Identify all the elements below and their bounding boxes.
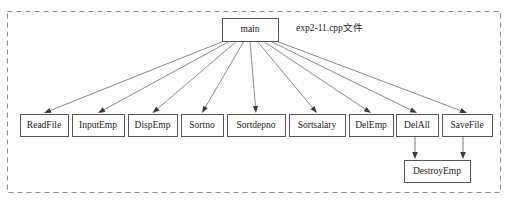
arrowhead-main-to-sortno bbox=[202, 106, 208, 113]
node-group: mainReadFileInputEmpDispEmpSortnoSortdep… bbox=[21, 19, 493, 183]
edge-main-to-savefile bbox=[276, 41, 461, 111]
node-sortdepno[interactable]: Sortdepno bbox=[228, 115, 286, 137]
node-sortdepno-label: Sortdepno bbox=[236, 120, 275, 130]
edge-main-to-sortsalary bbox=[257, 41, 313, 108]
edge-main-to-sortdepno bbox=[250, 41, 255, 107]
arrowhead-main-to-delall bbox=[410, 108, 417, 113]
node-delall[interactable]: DelAll bbox=[397, 115, 439, 137]
edge-main-to-readfile bbox=[50, 41, 224, 111]
node-main-label: main bbox=[241, 24, 260, 34]
edge-main-to-delall bbox=[270, 41, 411, 110]
edge-main-to-dispemp bbox=[157, 41, 237, 109]
node-delemp-label: DelEmp bbox=[355, 120, 387, 130]
call-graph-diagram: mainReadFileInputEmpDispEmpSortnoSortdep… bbox=[0, 0, 509, 201]
node-readfile[interactable]: ReadFile bbox=[21, 115, 69, 137]
node-sortsalary[interactable]: Sortsalary bbox=[290, 115, 346, 137]
node-savefile[interactable]: SaveFile bbox=[443, 115, 493, 137]
arrowhead-main-to-inputemp bbox=[98, 107, 105, 113]
node-dispemp-label: DispEmp bbox=[135, 120, 171, 130]
node-delemp[interactable]: DelEmp bbox=[350, 115, 394, 137]
arrowhead-main-to-delemp bbox=[364, 107, 371, 113]
node-destroyemp[interactable]: DestroyEmp bbox=[405, 161, 471, 183]
edge-main-to-inputemp bbox=[104, 41, 230, 110]
node-sortsalary-label: Sortsalary bbox=[298, 120, 337, 130]
node-destroyemp-label: DestroyEmp bbox=[413, 166, 461, 176]
node-sortno[interactable]: Sortno bbox=[182, 115, 224, 137]
arrowhead-main-to-savefile bbox=[460, 108, 467, 113]
node-inputemp[interactable]: InputEmp bbox=[73, 115, 125, 137]
arrowhead-delall-to-destroyemp bbox=[412, 152, 418, 159]
node-savefile-label: SaveFile bbox=[450, 120, 483, 130]
node-dispemp[interactable]: DispEmp bbox=[129, 115, 178, 137]
node-readfile-label: ReadFile bbox=[27, 120, 61, 130]
node-sortno-label: Sortno bbox=[189, 120, 215, 130]
arrowhead-savefile-to-destroyemp bbox=[460, 152, 466, 159]
arrowhead-main-to-readfile bbox=[44, 108, 51, 113]
node-delall-label: DelAll bbox=[404, 120, 430, 130]
diagram-page: mainReadFileInputEmpDispEmpSortnoSortdep… bbox=[0, 0, 509, 201]
edge-main-to-delemp bbox=[263, 41, 366, 109]
file-caption-label: exp2-11.cpp文件 bbox=[296, 22, 363, 33]
node-main[interactable]: main bbox=[223, 19, 279, 42]
arrowhead-main-to-sortdepno bbox=[253, 106, 258, 113]
caption-group: exp2-11.cpp文件 bbox=[296, 22, 363, 33]
node-inputemp-label: InputEmp bbox=[79, 120, 117, 130]
